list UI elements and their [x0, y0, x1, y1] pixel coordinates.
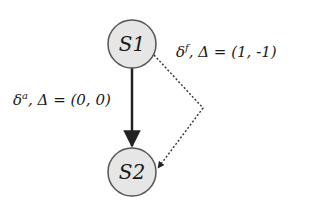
edge-s1-s2-dotted	[154, 55, 203, 168]
state-diagram: S1 S2 δa, Δ = (0, 0) δf, Δ = (1, -1)	[0, 0, 309, 213]
node-s2: S2	[108, 148, 156, 196]
node-s2-label: S2	[119, 160, 145, 184]
edge-label-dotted: δf, Δ = (1, -1)	[176, 42, 277, 61]
node-s1-label: S1	[119, 32, 145, 56]
edge-label-solid: δa, Δ = (0, 0)	[13, 90, 111, 109]
node-s1: S1	[108, 20, 156, 68]
